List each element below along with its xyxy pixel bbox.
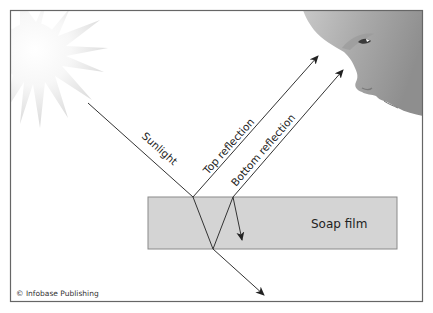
transmitted-ray	[213, 249, 264, 295]
sunlight-label: Sunlight	[140, 130, 180, 168]
observer-face-icon	[303, 10, 423, 116]
sunlight-ray	[88, 103, 193, 197]
bottom-reflection-label: Bottom reflection	[228, 111, 297, 188]
top-reflection-ray	[193, 56, 318, 197]
diagram: Sunlight Top reflection Bottom reflectio…	[0, 0, 433, 313]
soap-film-label: Soap film	[311, 217, 367, 231]
credit-text: © Infobase Publishing	[16, 289, 99, 298]
sun-icon	[0, 0, 108, 128]
